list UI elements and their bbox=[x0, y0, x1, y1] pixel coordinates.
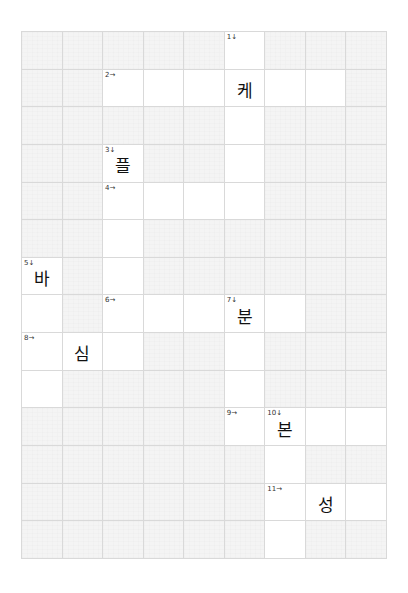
cell-letter: 심 bbox=[63, 333, 103, 370]
crossword-cell[interactable] bbox=[265, 295, 306, 333]
blocked-cell bbox=[103, 371, 144, 409]
blocked-cell bbox=[306, 333, 347, 371]
blocked-cell bbox=[144, 333, 185, 371]
crossword-cell[interactable] bbox=[103, 258, 144, 296]
blocked-cell bbox=[306, 258, 347, 296]
blocked-cell bbox=[103, 32, 144, 70]
blocked-cell bbox=[225, 258, 266, 296]
crossword-cell[interactable] bbox=[346, 484, 387, 522]
crossword-cell[interactable] bbox=[22, 295, 63, 333]
crossword-cell[interactable]: 9→ bbox=[225, 408, 266, 446]
blocked-cell bbox=[306, 145, 347, 183]
crossword-cell[interactable]: 5↓바 bbox=[22, 258, 63, 296]
crossword-cell[interactable] bbox=[225, 371, 266, 409]
crossword-cell[interactable] bbox=[265, 521, 306, 559]
blocked-cell bbox=[144, 408, 185, 446]
blocked-cell bbox=[63, 32, 104, 70]
blocked-cell bbox=[63, 258, 104, 296]
cell-letter: 케 bbox=[225, 70, 265, 107]
blocked-cell bbox=[306, 32, 347, 70]
blocked-cell bbox=[184, 333, 225, 371]
blocked-cell bbox=[346, 371, 387, 409]
blocked-cell bbox=[22, 446, 63, 484]
blocked-cell bbox=[346, 220, 387, 258]
blocked-cell bbox=[306, 107, 347, 145]
blocked-cell bbox=[346, 333, 387, 371]
blocked-cell bbox=[265, 333, 306, 371]
clue-number-label: 6→ bbox=[105, 296, 115, 304]
crossword-cell[interactable] bbox=[346, 408, 387, 446]
blocked-cell bbox=[144, 371, 185, 409]
blocked-cell bbox=[144, 258, 185, 296]
blocked-cell bbox=[22, 484, 63, 522]
blocked-cell bbox=[184, 32, 225, 70]
crossword-cell[interactable] bbox=[22, 371, 63, 409]
crossword-cell[interactable] bbox=[103, 220, 144, 258]
crossword-cell[interactable]: 케 bbox=[225, 70, 266, 108]
crossword-cell[interactable]: 11→ bbox=[265, 484, 306, 522]
cell-letter: 분 bbox=[225, 295, 265, 332]
blocked-cell bbox=[265, 145, 306, 183]
crossword-cell[interactable]: 3↓플 bbox=[103, 145, 144, 183]
blocked-cell bbox=[225, 220, 266, 258]
crossword-cell[interactable] bbox=[225, 333, 266, 371]
crossword-cell[interactable] bbox=[225, 183, 266, 221]
crossword-cell[interactable]: 2→ bbox=[103, 70, 144, 108]
crossword-cell[interactable]: 6→ bbox=[103, 295, 144, 333]
crossword-cell[interactable] bbox=[265, 446, 306, 484]
crossword-cell[interactable]: 심 bbox=[63, 333, 104, 371]
blocked-cell bbox=[22, 183, 63, 221]
crossword-cell[interactable] bbox=[225, 107, 266, 145]
blocked-cell bbox=[265, 107, 306, 145]
clue-number-label: 9→ bbox=[227, 409, 237, 417]
blocked-cell bbox=[265, 371, 306, 409]
crossword-cell[interactable]: 7↓분 bbox=[225, 295, 266, 333]
crossword-cell[interactable] bbox=[184, 70, 225, 108]
blocked-cell bbox=[346, 183, 387, 221]
blocked-cell bbox=[63, 408, 104, 446]
blocked-cell bbox=[265, 220, 306, 258]
clue-number-label: 2→ bbox=[105, 71, 115, 79]
crossword-cell[interactable] bbox=[144, 295, 185, 333]
clue-number-label: 1↓ bbox=[227, 33, 237, 41]
blocked-cell bbox=[144, 220, 185, 258]
cell-letter: 플 bbox=[103, 145, 143, 182]
blocked-cell bbox=[22, 521, 63, 559]
blocked-cell bbox=[22, 70, 63, 108]
crossword-grid: 1↓2→케3↓플4→5↓바6→7↓분8→심9→10↓본11→성 bbox=[21, 31, 387, 559]
blocked-cell bbox=[265, 258, 306, 296]
clue-number-label: 11→ bbox=[267, 485, 282, 493]
blocked-cell bbox=[144, 521, 185, 559]
clue-number-label: 8→ bbox=[24, 334, 34, 342]
crossword-cell[interactable] bbox=[225, 145, 266, 183]
crossword-cell[interactable] bbox=[184, 295, 225, 333]
crossword-cell[interactable]: 1↓ bbox=[225, 32, 266, 70]
crossword-cell[interactable]: 8→ bbox=[22, 333, 63, 371]
cell-letter: 바 bbox=[22, 258, 62, 295]
blocked-cell bbox=[63, 371, 104, 409]
crossword-cell[interactable] bbox=[306, 70, 347, 108]
crossword-cell[interactable]: 성 bbox=[306, 484, 347, 522]
crossword-cell[interactable]: 4→ bbox=[103, 183, 144, 221]
crossword-cell[interactable] bbox=[184, 183, 225, 221]
blocked-cell bbox=[22, 32, 63, 70]
blocked-cell bbox=[184, 446, 225, 484]
blocked-cell bbox=[63, 295, 104, 333]
blocked-cell bbox=[22, 408, 63, 446]
blocked-cell bbox=[63, 145, 104, 183]
crossword-cell[interactable] bbox=[144, 183, 185, 221]
blocked-cell bbox=[184, 258, 225, 296]
blocked-cell bbox=[225, 484, 266, 522]
blocked-cell bbox=[225, 446, 266, 484]
crossword-cell[interactable] bbox=[103, 333, 144, 371]
blocked-cell bbox=[63, 521, 104, 559]
crossword-cell[interactable] bbox=[144, 70, 185, 108]
blocked-cell bbox=[144, 145, 185, 183]
blocked-cell bbox=[103, 107, 144, 145]
crossword-cell[interactable] bbox=[306, 408, 347, 446]
blocked-cell bbox=[306, 521, 347, 559]
crossword-cell[interactable] bbox=[265, 70, 306, 108]
blocked-cell bbox=[346, 32, 387, 70]
crossword-cell[interactable]: 10↓본 bbox=[265, 408, 306, 446]
blocked-cell bbox=[144, 32, 185, 70]
